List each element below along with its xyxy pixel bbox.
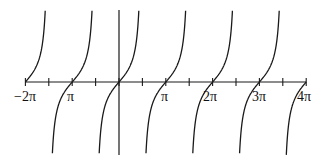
tick-label-2pi: 2π — [203, 90, 217, 104]
tick-label-4pi: 4π — [297, 90, 311, 104]
tick-label-neg-pi: π — [67, 90, 74, 104]
tick-label-pi: π — [161, 90, 168, 104]
tick-labels: −2π π π 2π 3π 4π — [0, 0, 329, 163]
tick-label-neg-2pi: −2π — [14, 90, 36, 104]
tick-label-3pi: 3π — [252, 90, 266, 104]
